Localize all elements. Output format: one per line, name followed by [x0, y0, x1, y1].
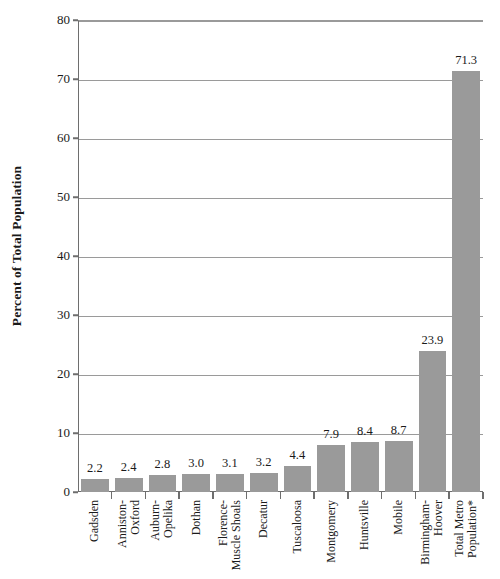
- bar-slot: 23.9: [416, 20, 450, 492]
- x-axis-category-label: Anniston-Oxford: [112, 500, 146, 579]
- bar-slot: 3.1: [213, 20, 247, 492]
- x-axis-tick-mark: [448, 492, 450, 499]
- bar-slot: 4.4: [281, 20, 315, 492]
- y-axis-tick-label: 30: [18, 307, 78, 323]
- x-axis-category-label: Total MetroPopulation*: [449, 500, 483, 579]
- x-axis-category-label: Dothan: [179, 500, 213, 579]
- x-axis-labels: GadsdenAnniston-OxfordAuburn-OpelikaDoth…: [78, 500, 483, 579]
- x-axis-category-label: Huntsville: [348, 500, 382, 579]
- x-axis-category-label-line: Oxford: [129, 500, 142, 548]
- x-axis-category-label-line: Anniston-: [115, 500, 129, 548]
- x-axis-category-label-line: Opelika: [162, 500, 175, 541]
- bar-slot: 2.2: [78, 20, 112, 492]
- y-axis-tick-label: 80: [18, 12, 78, 28]
- x-axis-tick-mark: [145, 492, 147, 499]
- x-axis-category-label-line: Population*: [466, 500, 479, 558]
- x-axis-category-label: Tuscaloosa: [281, 500, 315, 579]
- y-axis-scale: 01020304050607080: [18, 20, 78, 492]
- x-axis-tick-mark: [482, 492, 484, 499]
- bar[interactable]: [284, 466, 312, 492]
- bar[interactable]: [351, 442, 379, 492]
- bar[interactable]: [250, 473, 278, 492]
- x-axis-category-label: Florence-Muscle Shoals: [213, 500, 247, 579]
- x-axis-category-label-line: Decatur: [256, 500, 270, 538]
- x-axis-category-label: Decatur: [247, 500, 281, 579]
- x-axis-tick-mark: [246, 492, 248, 499]
- bar-slot: 3.0: [179, 20, 213, 492]
- bar-slot: 2.4: [112, 20, 146, 492]
- bar-slot: 71.3: [449, 20, 483, 492]
- x-axis-category-label-line: Florence-: [216, 500, 230, 546]
- x-axis-tick-mark: [111, 492, 113, 499]
- x-axis-category-label-line: Tuscaloosa: [290, 500, 304, 554]
- bar-value-label: 71.3: [443, 53, 489, 68]
- bar[interactable]: [182, 474, 210, 492]
- bar[interactable]: [419, 351, 447, 492]
- y-axis-tick-label: 0: [18, 484, 78, 500]
- bar[interactable]: [149, 475, 177, 492]
- x-axis-tick-mark: [212, 492, 214, 499]
- x-axis-category-label: Birmingham-Hoover: [416, 500, 450, 579]
- x-axis-category-label: Mobile: [382, 500, 416, 579]
- x-axis-tick-mark: [347, 492, 349, 499]
- x-axis-ticks: [78, 492, 483, 499]
- y-axis-tick-label: 20: [18, 366, 78, 382]
- x-axis-category-label-line: Montgomery: [324, 500, 338, 563]
- x-axis-tick-mark: [178, 492, 180, 499]
- x-axis-category-label: Gadsden: [78, 500, 112, 579]
- x-axis-tick-mark: [313, 492, 315, 499]
- bar-slot: 3.2: [247, 20, 281, 492]
- x-axis-tick-mark: [415, 492, 417, 499]
- y-axis-tick-label: 40: [18, 248, 78, 264]
- bar-slot: 7.9: [314, 20, 348, 492]
- bar[interactable]: [317, 445, 345, 492]
- y-axis-tick-label: 50: [18, 189, 78, 205]
- x-axis-category-label-line: Mobile: [391, 500, 405, 535]
- bars-layer: 2.22.42.83.03.13.24.47.98.48.723.971.3: [78, 20, 483, 492]
- x-axis-category-label-line: Gadsden: [87, 500, 101, 542]
- bar-slot: 8.4: [348, 20, 382, 492]
- x-axis-category-label: Montgomery: [314, 500, 348, 579]
- bar[interactable]: [81, 479, 109, 492]
- bar[interactable]: [216, 474, 244, 492]
- x-axis-category-label-line: Dothan: [189, 500, 203, 535]
- x-axis-category-label-line: Hoover: [432, 500, 445, 565]
- x-axis-tick-mark: [280, 492, 282, 499]
- y-axis-tick-label: 60: [18, 130, 78, 146]
- y-axis-tick-label: 70: [18, 71, 78, 87]
- x-axis-tick-mark: [381, 492, 383, 499]
- bar[interactable]: [385, 441, 413, 492]
- bar-slot: 2.8: [146, 20, 180, 492]
- bar-slot: 8.7: [382, 20, 416, 492]
- y-axis-tick-label: 10: [18, 425, 78, 441]
- x-axis-category-label-line: Muscle Shoals: [230, 500, 243, 570]
- x-axis-category-label: Auburn-Opelika: [146, 500, 180, 579]
- bar-chart: Percent of Total Population 010203040506…: [0, 0, 500, 579]
- bar[interactable]: [115, 478, 143, 492]
- x-axis-category-label-line: Huntsville: [357, 500, 371, 550]
- bar[interactable]: [452, 71, 480, 492]
